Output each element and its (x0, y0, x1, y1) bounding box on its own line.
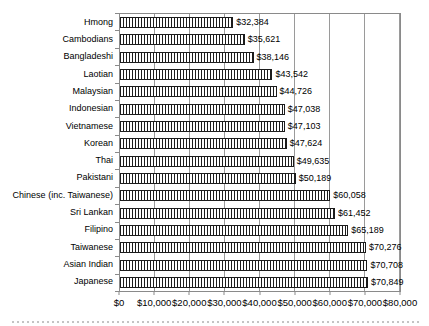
bar-row: $47,038 (120, 101, 400, 118)
category-label: Vietnamese (0, 117, 113, 134)
category-label: Sri Lankan (0, 203, 113, 220)
bar-row: $61,452 (120, 204, 400, 221)
bar-row: $44,726 (120, 83, 400, 100)
bar-chart-figure: HmongCambodiansBangladeshiLaotianMalaysi… (0, 0, 429, 326)
bar-row: $38,146 (120, 49, 400, 66)
plot-rows: $32,384$35,621$38,146$43,542$44,726$47,0… (120, 14, 400, 291)
x-axis-tick (294, 291, 295, 295)
x-axis-tickmarks (119, 291, 400, 295)
x-axis-tick (189, 291, 190, 295)
value-label: $70,276 (369, 243, 402, 252)
bar-row: $35,621 (120, 31, 400, 48)
bar (120, 69, 272, 80)
category-axis: HmongCambodiansBangladeshiLaotianMalaysi… (0, 13, 113, 290)
x-axis-tick (364, 291, 365, 295)
bar-row: $70,276 (120, 239, 400, 256)
category-label: Korean (0, 134, 113, 151)
value-label: $61,452 (338, 209, 371, 218)
x-axis-tick-label: $70,000 (348, 298, 382, 308)
x-axis-tick-label: $30,000 (207, 298, 241, 308)
bar-row: $70,849 (120, 274, 400, 291)
bar (120, 190, 330, 201)
bar (120, 86, 277, 97)
bar-row: $50,189 (120, 170, 400, 187)
category-label: Malaysian (0, 82, 113, 99)
value-label: $70,708 (370, 261, 403, 270)
x-axis-tick (119, 291, 120, 295)
bar-row: $47,624 (120, 135, 400, 152)
x-axis-tick (154, 291, 155, 295)
x-axis-tick-label: $40,000 (242, 298, 276, 308)
x-axis-tick-label: $80,000 (383, 298, 417, 308)
x-axis-tick (259, 291, 260, 295)
bar (120, 225, 348, 236)
bar-row: $65,189 (120, 222, 400, 239)
bar-row: $60,058 (120, 187, 400, 204)
x-axis-tick-label: $10,000 (137, 298, 171, 308)
value-label: $47,624 (290, 139, 323, 148)
category-label: Japanese (0, 273, 113, 290)
bar (120, 52, 254, 63)
bar-row: $32,384 (120, 14, 400, 31)
x-axis-tick-label: $50,000 (277, 298, 311, 308)
category-label: Filipino (0, 221, 113, 238)
value-label: $44,726 (280, 87, 313, 96)
bar (120, 260, 367, 271)
plot-area: $32,384$35,621$38,146$43,542$44,726$47,0… (119, 13, 401, 292)
bar-row: $43,542 (120, 66, 400, 83)
x-axis-tick-label: $60,000 (313, 298, 347, 308)
category-label: Laotian (0, 65, 113, 82)
cropped-caption (12, 321, 420, 323)
x-axis-tick (400, 291, 401, 295)
category-label: Pakistani (0, 169, 113, 186)
value-label: $35,621 (248, 35, 281, 44)
bar (120, 208, 335, 219)
x-axis-labels: $0$10,000$20,000$30,000$40,000$50,000$60… (119, 298, 400, 310)
category-label: Taiwanese (0, 238, 113, 255)
category-label: Chinese (inc. Taiwanese) (0, 186, 113, 203)
category-label: Thai (0, 152, 113, 169)
bar (120, 138, 287, 149)
x-axis-tick-label: $0 (114, 298, 125, 308)
bar-row: $70,708 (120, 256, 400, 273)
bar (120, 156, 294, 167)
value-label: $60,058 (333, 191, 366, 200)
value-label: $65,189 (351, 226, 384, 235)
bar (120, 173, 296, 184)
value-label: $70,849 (371, 278, 404, 287)
x-axis-tick (224, 291, 225, 295)
category-label: Cambodians (0, 30, 113, 47)
bar (120, 121, 285, 132)
bar (120, 17, 233, 28)
value-label: $43,542 (275, 70, 308, 79)
category-label: Bangladeshi (0, 48, 113, 65)
bar (120, 34, 245, 45)
bar (120, 104, 285, 115)
x-axis-tick-label: $20,000 (172, 298, 206, 308)
value-label: $47,038 (288, 105, 321, 114)
value-label: $50,189 (299, 174, 332, 183)
value-label: $49,635 (297, 157, 330, 166)
category-label: Asian Indian (0, 255, 113, 272)
value-label: $32,384 (236, 18, 269, 27)
category-label: Hmong (0, 13, 113, 30)
value-label: $38,146 (257, 53, 290, 62)
bar (120, 242, 366, 253)
bar-row: $49,635 (120, 153, 400, 170)
category-label: Indonesian (0, 100, 113, 117)
bar-row: $47,103 (120, 118, 400, 135)
bar (120, 277, 368, 288)
value-label: $47,103 (288, 122, 321, 131)
x-axis-tick (329, 291, 330, 295)
